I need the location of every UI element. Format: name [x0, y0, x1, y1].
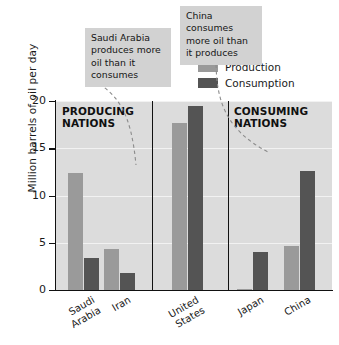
oil-production-consumption-chart: Million barrels of oil per day 20151050S… [0, 0, 339, 345]
bar-saudi-arabia-production [68, 173, 83, 290]
y-tick-label-15: 15 [0, 141, 46, 154]
bar-iran-production [104, 249, 119, 290]
bar-japan-production [237, 289, 252, 290]
y-tick-label-10: 10 [0, 189, 46, 202]
x-tick-label-united-states: UnitedStates [150, 294, 207, 340]
x-label-line1: China [262, 294, 313, 330]
bar-saudi-arabia-consumption [84, 258, 99, 290]
callout-saudi-arabia: Saudi Arabia produces more oil than it c… [85, 28, 171, 87]
bar-china-production [284, 246, 299, 290]
section-label-producing-nations: PRODUCING NATIONS [62, 105, 134, 130]
producing-nations-line2: NATIONS [62, 117, 134, 129]
y-tick-mark-15 [49, 148, 55, 149]
section-divider-1 [152, 101, 153, 291]
x-label-line1: Japan [215, 294, 266, 330]
y-tick-label-20: 20 [0, 94, 46, 107]
x-tick-label-china: China [262, 294, 313, 330]
x-axis-line [55, 290, 333, 291]
y-tick-mark-0 [49, 290, 55, 291]
y-tick-label-0: 0 [0, 283, 46, 296]
section-divider-2 [228, 101, 229, 291]
bar-japan-consumption [253, 252, 268, 290]
consuming-nations-line2: NATIONS [234, 117, 308, 129]
bar-iran-consumption [120, 273, 135, 290]
y-axis-line [55, 100, 56, 291]
consuming-nations-line1: CONSUMING [234, 105, 308, 117]
gridline-20 [56, 101, 332, 102]
legend-item-consumption: Consumption [198, 75, 295, 91]
producing-nations-line1: PRODUCING [62, 105, 134, 117]
legend-swatch-consumption-icon [198, 78, 218, 88]
bar-china-consumption [300, 171, 315, 290]
bar-united-states-consumption [188, 106, 203, 290]
section-label-consuming-nations: CONSUMING NATIONS [234, 105, 308, 130]
x-tick-label-japan: Japan [215, 294, 266, 330]
y-tick-mark-20 [49, 101, 55, 102]
legend-label-consumption: Consumption [225, 77, 295, 89]
y-tick-label-5: 5 [0, 236, 46, 249]
y-tick-mark-5 [49, 243, 55, 244]
callout-china: China consumes more oil than it produces [180, 6, 262, 65]
y-tick-mark-10 [49, 196, 55, 197]
bar-united-states-production [172, 123, 187, 290]
